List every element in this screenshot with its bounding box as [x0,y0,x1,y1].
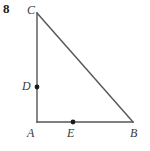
point-e-marker [71,120,76,125]
geometry-figure: 8 C D A E B [0,0,150,151]
triangle-diagram [0,0,150,151]
point-label-e: E [67,127,74,139]
vertex-label-c: C [27,4,35,16]
point-d-marker [35,85,40,90]
vertex-label-a: A [27,127,34,139]
point-label-d: D [22,80,31,92]
segment-cb [37,13,133,122]
vertex-label-b: B [130,127,137,139]
